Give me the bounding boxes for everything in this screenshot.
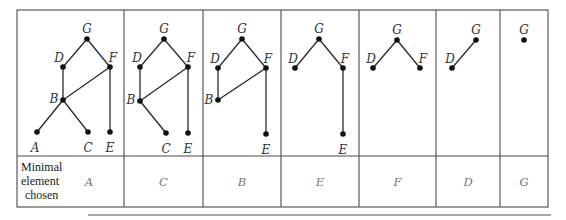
chosen-element-step-5: F (393, 175, 403, 189)
node-label-F: F (340, 52, 350, 66)
edge-G-D (218, 39, 242, 68)
node-F (107, 64, 113, 70)
chosen-element-step-7: G (519, 175, 528, 189)
edge-B-C (63, 100, 88, 132)
node-label-E: E (338, 143, 348, 157)
node-label-G: G (237, 22, 247, 36)
chosen-element-step-2: C (159, 175, 168, 189)
node-label-E: E (183, 142, 193, 156)
edge-F-B (140, 67, 188, 101)
node-C (163, 130, 169, 136)
diagram-canvas: GDFBACEGDFBCEGDFBEGDFEGDFGDG Minimal ele… (0, 0, 566, 220)
chosen-element-step-4: E (315, 175, 325, 189)
hasse-diagram-step-3: GDFBE (204, 22, 273, 157)
hasse-diagram-step-2: GDFBCE (126, 22, 196, 156)
node-label-G: G (159, 22, 169, 36)
node-D (370, 65, 376, 71)
node-label-D: D (365, 52, 376, 66)
node-G (521, 37, 527, 43)
row-label-line-2: element (21, 174, 60, 188)
node-label-E: E (261, 143, 271, 157)
node-label-F: F (263, 52, 273, 66)
node-label-C: C (161, 142, 170, 156)
node-label-G: G (82, 22, 92, 36)
node-B (215, 97, 221, 103)
row-label-line-3: chosen (25, 188, 58, 202)
node-label-F: F (418, 52, 428, 66)
edge-G-D (63, 39, 87, 67)
row-label-minimal-element-chosen: Minimal element chosen (21, 160, 63, 202)
node-F (263, 65, 269, 71)
node-F (417, 65, 423, 71)
node-label-D: D (53, 51, 64, 65)
edge-B-C (140, 101, 166, 133)
hasse-diagrams: GDFBACEGDFBCEGDFBEGDFEGDFGDG (30, 22, 530, 157)
node-A (34, 129, 40, 135)
chosen-element-step-6: D (462, 175, 472, 189)
node-D (60, 64, 66, 70)
edge-G-D (452, 40, 476, 68)
node-label-G: G (519, 23, 529, 37)
node-G (316, 36, 322, 42)
node-label-D: D (209, 52, 220, 66)
node-label-D: D (131, 51, 142, 65)
node-D (292, 65, 298, 71)
hasse-diagram-step-7: G (519, 23, 529, 43)
edge-F-B (63, 67, 110, 100)
edge-G-D (373, 40, 397, 68)
node-label-A: A (30, 141, 40, 155)
node-G (473, 37, 479, 43)
edge-F-B (218, 68, 266, 100)
edge-G-D (295, 39, 319, 68)
edge-G-F (164, 39, 188, 67)
node-E (107, 129, 113, 135)
edge-G-F (87, 39, 110, 67)
node-B (60, 97, 66, 103)
hasse-diagram-step-1: GDFBACE (30, 22, 118, 155)
node-label-G: G (314, 22, 324, 36)
node-label-D: D (287, 52, 298, 66)
node-G (161, 36, 167, 42)
node-F (185, 64, 191, 70)
node-G (84, 36, 90, 42)
node-D (137, 64, 143, 70)
node-label-D: D (444, 52, 455, 66)
node-D (215, 65, 221, 71)
chosen-element-step-1: A (84, 175, 93, 189)
poset-minimal-element-diagram: GDFBACEGDFBCEGDFBEGDFEGDFGDG Minimal ele… (0, 0, 566, 220)
edge-G-D (140, 39, 164, 67)
hasse-diagram-step-5: GDF (365, 23, 428, 71)
node-E (185, 130, 191, 136)
node-label-B: B (126, 93, 136, 107)
hasse-diagram-step-6: GD (444, 23, 481, 71)
hasse-diagram-step-4: GDFE (287, 22, 350, 157)
node-label-G: G (392, 23, 402, 37)
node-E (263, 131, 269, 137)
chosen-elements-row: ACBEFDG (84, 175, 529, 189)
node-G (394, 37, 400, 43)
node-label-C: C (83, 141, 92, 155)
edge-G-F (397, 40, 420, 68)
node-G (239, 36, 245, 42)
node-B (137, 98, 143, 104)
chosen-element-step-3: B (237, 175, 246, 189)
edge-G-F (242, 39, 266, 68)
node-E (340, 131, 346, 137)
node-label-B: B (49, 92, 59, 106)
node-label-B: B (204, 93, 214, 107)
node-label-E: E (105, 141, 115, 155)
node-label-F: F (108, 51, 118, 65)
row-label-line-1: Minimal (21, 160, 63, 174)
node-D (449, 65, 455, 71)
node-label-G: G (471, 23, 481, 37)
node-F (340, 65, 346, 71)
node-C (85, 129, 91, 135)
edge-G-F (319, 39, 343, 68)
node-label-F: F (186, 51, 196, 65)
